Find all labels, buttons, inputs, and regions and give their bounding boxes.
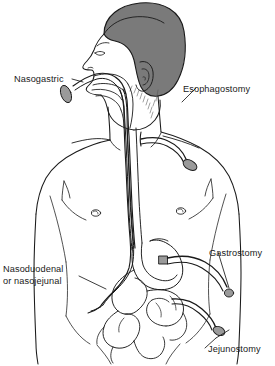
label-nasogastric: Nasogastric — [14, 74, 64, 84]
label-gastrostomy: Gastrostomy — [209, 248, 262, 258]
label-nasoduodenal-line2: or nasojejunal — [3, 276, 62, 286]
enteral-feeding-routes-figure: Nasogastric Esophagostomy Nasoduodenal o… — [0, 0, 275, 366]
label-nasoduodenal-line1: Nasoduodenal — [3, 264, 63, 274]
label-jejunostomy: Jejunostomy — [208, 344, 261, 354]
gastrostomy-port — [159, 256, 168, 264]
label-esophagostomy: Esophagostomy — [183, 84, 250, 94]
anatomical-illustration: Nasogastric Esophagostomy Nasoduodenal o… — [0, 0, 275, 366]
gastrostomy-tube-tip — [224, 289, 233, 297]
